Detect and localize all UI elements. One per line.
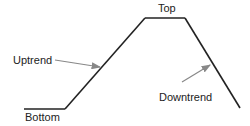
- top-label: Top: [158, 2, 176, 14]
- trend-cycle-diagram: Top Bottom Uptrend Downtrend: [0, 0, 250, 126]
- downtrend-label: Downtrend: [159, 91, 212, 103]
- uptrend-label: Uptrend: [13, 54, 52, 66]
- downtrend-arrow: [182, 65, 210, 82]
- bottom-label: Bottom: [25, 111, 60, 123]
- uptrend-arrow: [55, 60, 100, 67]
